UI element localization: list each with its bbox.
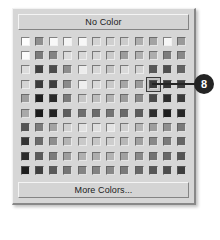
color-swatch[interactable] (146, 48, 160, 62)
color-swatch[interactable] (146, 135, 160, 149)
color-swatch[interactable] (47, 164, 61, 178)
color-swatch[interactable] (47, 135, 61, 149)
color-swatch[interactable] (175, 63, 189, 77)
color-swatch[interactable] (89, 135, 103, 149)
color-swatch[interactable] (32, 164, 46, 178)
color-swatch[interactable] (146, 106, 160, 120)
color-swatch[interactable] (18, 77, 32, 91)
color-swatch[interactable] (32, 63, 46, 77)
color-swatch[interactable] (161, 149, 175, 163)
color-swatch[interactable] (61, 92, 75, 106)
color-swatch[interactable] (32, 149, 46, 163)
color-swatch[interactable] (104, 63, 118, 77)
color-swatch[interactable] (104, 34, 118, 48)
color-swatch[interactable] (32, 48, 46, 62)
color-swatch[interactable] (89, 92, 103, 106)
color-swatch[interactable] (18, 106, 32, 120)
color-swatch[interactable] (161, 34, 175, 48)
color-swatch[interactable] (47, 34, 61, 48)
color-swatch[interactable] (132, 120, 146, 134)
color-swatch[interactable] (104, 164, 118, 178)
color-swatch[interactable] (146, 63, 160, 77)
color-swatch[interactable] (118, 48, 132, 62)
color-swatch[interactable] (89, 120, 103, 134)
color-swatch[interactable] (61, 48, 75, 62)
color-swatch[interactable] (146, 120, 160, 134)
color-swatch[interactable] (146, 92, 160, 106)
color-swatch[interactable] (18, 48, 32, 62)
color-swatch[interactable] (32, 92, 46, 106)
color-swatch[interactable] (104, 149, 118, 163)
color-swatch[interactable] (175, 34, 189, 48)
color-swatch[interactable] (32, 120, 46, 134)
color-swatch[interactable] (175, 106, 189, 120)
color-swatch[interactable] (118, 135, 132, 149)
color-swatch[interactable] (18, 92, 32, 106)
color-swatch[interactable] (118, 120, 132, 134)
color-swatch[interactable] (161, 135, 175, 149)
color-swatch[interactable] (75, 106, 89, 120)
color-swatch[interactable] (146, 164, 160, 178)
color-swatch[interactable] (146, 149, 160, 163)
color-swatch[interactable] (104, 106, 118, 120)
color-swatch[interactable] (47, 106, 61, 120)
color-swatch[interactable] (61, 135, 75, 149)
color-swatch[interactable] (132, 34, 146, 48)
color-swatch[interactable] (118, 106, 132, 120)
color-swatch[interactable] (175, 164, 189, 178)
color-swatch[interactable] (47, 92, 61, 106)
color-swatch[interactable] (132, 135, 146, 149)
color-swatch[interactable] (61, 149, 75, 163)
color-swatch[interactable] (161, 92, 175, 106)
color-swatch[interactable] (18, 164, 32, 178)
color-swatch[interactable] (75, 92, 89, 106)
color-swatch[interactable] (118, 149, 132, 163)
color-swatch[interactable] (175, 120, 189, 134)
color-swatch[interactable] (118, 92, 132, 106)
color-swatch[interactable] (175, 149, 189, 163)
color-swatch[interactable] (132, 48, 146, 62)
color-swatch[interactable] (104, 120, 118, 134)
color-swatch[interactable] (161, 106, 175, 120)
color-swatch-grid[interactable] (17, 33, 190, 179)
color-swatch[interactable] (161, 48, 175, 62)
color-swatch[interactable] (47, 77, 61, 91)
color-swatch[interactable] (75, 149, 89, 163)
color-swatch[interactable] (18, 120, 32, 134)
color-swatch[interactable] (89, 34, 103, 48)
color-swatch[interactable] (146, 34, 160, 48)
color-swatch[interactable] (75, 77, 89, 91)
color-swatch[interactable] (47, 48, 61, 62)
color-swatch[interactable] (75, 135, 89, 149)
color-swatch[interactable] (61, 120, 75, 134)
color-swatch[interactable] (32, 135, 46, 149)
color-swatch[interactable] (32, 77, 46, 91)
color-swatch[interactable] (89, 106, 103, 120)
color-swatch[interactable] (47, 120, 61, 134)
color-swatch[interactable] (61, 34, 75, 48)
color-swatch[interactable] (47, 149, 61, 163)
color-swatch[interactable] (75, 164, 89, 178)
color-swatch[interactable] (161, 63, 175, 77)
color-swatch[interactable] (18, 34, 32, 48)
color-swatch[interactable] (118, 34, 132, 48)
color-swatch[interactable] (18, 135, 32, 149)
color-swatch[interactable] (61, 77, 75, 91)
color-swatch[interactable] (61, 106, 75, 120)
color-swatch[interactable] (118, 77, 132, 91)
color-swatch[interactable] (89, 77, 103, 91)
color-swatch[interactable] (104, 77, 118, 91)
color-swatch[interactable] (89, 48, 103, 62)
color-swatch[interactable] (104, 92, 118, 106)
color-swatch[interactable] (132, 164, 146, 178)
more-colors-button[interactable]: More Colors... (18, 182, 189, 198)
color-swatch[interactable] (175, 48, 189, 62)
color-swatch[interactable] (104, 135, 118, 149)
color-swatch[interactable] (132, 149, 146, 163)
color-swatch[interactable] (89, 164, 103, 178)
color-swatch[interactable] (89, 63, 103, 77)
color-swatch[interactable] (132, 77, 146, 91)
color-swatch[interactable] (161, 164, 175, 178)
color-swatch[interactable] (161, 120, 175, 134)
color-swatch[interactable] (104, 48, 118, 62)
